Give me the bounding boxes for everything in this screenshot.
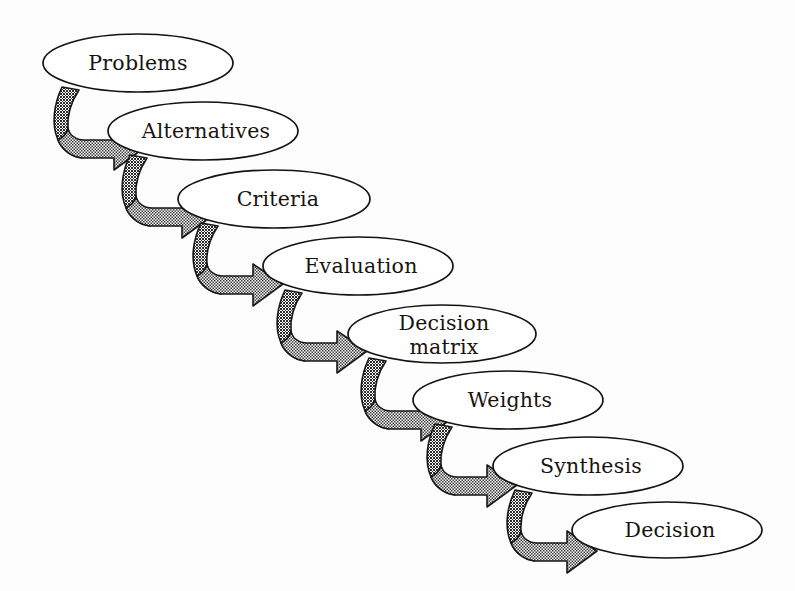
node-decision[interactable]: Decision xyxy=(572,502,762,558)
node-label-evaluation: Evaluation xyxy=(304,254,417,278)
node-weights[interactable]: Weights xyxy=(413,371,603,429)
node-label-synthesis: Synthesis xyxy=(540,454,642,478)
node-decision-matrix[interactable]: Decision matrix xyxy=(348,305,536,363)
node-criteria[interactable]: Criteria xyxy=(178,170,370,228)
node-label-weights: Weights xyxy=(468,388,553,412)
flow-canvas: Problems Alternatives Criteria Evaluatio… xyxy=(0,0,795,591)
node-label-alternatives: Alternatives xyxy=(141,119,270,143)
node-synthesis[interactable]: Synthesis xyxy=(493,437,683,495)
node-alternatives[interactable]: Alternatives xyxy=(108,102,298,160)
node-evaluation[interactable]: Evaluation xyxy=(263,237,453,295)
node-layer: Problems Alternatives Criteria Evaluatio… xyxy=(43,34,762,558)
node-label-decision-matrix-line1: Decision xyxy=(399,311,490,335)
process-flow-diagram: Problems Alternatives Criteria Evaluatio… xyxy=(0,0,795,591)
node-problems[interactable]: Problems xyxy=(43,34,233,92)
node-label-decision: Decision xyxy=(625,518,716,542)
node-label-problems: Problems xyxy=(88,51,187,75)
node-label-criteria: Criteria xyxy=(237,187,320,211)
node-label-decision-matrix-line2: matrix xyxy=(409,335,478,359)
